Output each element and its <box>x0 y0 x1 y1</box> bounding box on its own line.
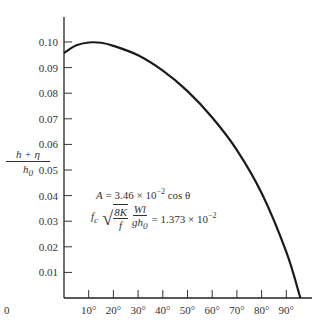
y-label-denominator: h0 <box>6 162 50 178</box>
y-label-numerator: h + η <box>6 148 50 162</box>
x-tick-label: 50° <box>180 304 195 316</box>
y-tick-label: 0.03 <box>39 215 59 227</box>
annotation-amplitude: A = 3.46 × 10−2 cos θ <box>96 187 190 201</box>
x-tick-label: 0 <box>4 304 10 316</box>
x-tick-label: 20° <box>106 304 121 316</box>
data-curve <box>64 42 300 298</box>
fraction-expression: Wl gh0 <box>132 203 148 232</box>
y-axis-label: h + η h0 <box>6 148 50 178</box>
y-tick-label: 0.02 <box>39 241 58 253</box>
x-tick-label: 90° <box>279 304 294 316</box>
x-tick-label: 40° <box>155 304 170 316</box>
x-tick-label: 10° <box>81 304 96 316</box>
sqrt-expression: √ 8K f <box>102 204 128 231</box>
x-tick-label: 80° <box>254 304 269 316</box>
y-tick-label: 0.07 <box>39 113 59 125</box>
x-tick-label: 70° <box>229 304 244 316</box>
annotation-parameter: fc √ 8K f Wl gh0 = 1.373 × 10−2 <box>91 203 216 232</box>
x-tick-label: 30° <box>130 304 145 316</box>
x-tick-label: 60° <box>204 304 219 316</box>
y-tick-label: 0.04 <box>39 190 59 202</box>
y-tick-label: 0.10 <box>39 36 59 48</box>
x-ticks: 010°20°30°40°50°60°70°80°90° <box>4 290 294 316</box>
y-tick-label: 0.09 <box>39 62 59 74</box>
y-tick-label: 0.08 <box>39 87 59 99</box>
y-tick-label: 0.01 <box>39 266 58 278</box>
